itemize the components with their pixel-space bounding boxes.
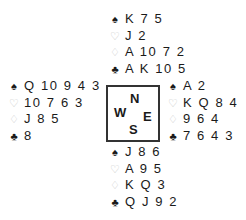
west-spades: ♠ Q 10 9 4 3 [8, 78, 101, 95]
spade-icon: ♠ [167, 78, 179, 95]
compass-box: N W E S [106, 85, 160, 142]
compass-east-label: E [143, 109, 152, 124]
east-hearts: ♡ K Q 8 4 [167, 95, 238, 112]
east-diamonds: ♢ 9 6 4 [167, 111, 238, 128]
south-spades-cards: J 8 6 [125, 144, 161, 161]
west-clubs-cards: 8 [24, 128, 33, 145]
north-diamonds: ♢ A 10 7 2 [109, 44, 187, 61]
compass-west-label: W [114, 105, 126, 120]
north-hearts-cards: J 2 [125, 28, 147, 45]
heart-icon: ♡ [8, 95, 20, 112]
club-icon: ♣ [8, 128, 20, 145]
south-spades: ♠ J 8 6 [109, 144, 178, 161]
club-icon: ♣ [109, 61, 121, 78]
diamond-icon: ♢ [109, 177, 121, 194]
diamond-icon: ♢ [167, 111, 179, 128]
south-hand: ♠ J 8 6 ♡ A 9 5 ♢ K Q 3 ♣ Q J 9 2 [109, 144, 178, 210]
east-diamonds-cards: 9 6 4 [183, 111, 220, 128]
east-clubs: ♣ 7 6 4 3 [167, 128, 238, 145]
south-hearts-cards: A 9 5 [125, 161, 163, 178]
west-hearts: ♡ 10 7 6 3 [8, 95, 101, 112]
east-hearts-cards: K Q 8 4 [183, 95, 238, 112]
north-hearts: ♡ J 2 [109, 28, 187, 45]
compass-north-label: N [130, 91, 139, 106]
spade-icon: ♠ [8, 78, 20, 95]
diamond-icon: ♢ [109, 44, 121, 61]
west-clubs: ♣ 8 [8, 128, 101, 145]
spade-icon: ♠ [109, 11, 121, 28]
north-clubs-cards: A K 10 5 [125, 61, 187, 78]
north-diamonds-cards: A 10 7 2 [125, 44, 186, 61]
west-hand: ♠ Q 10 9 4 3 ♡ 10 7 6 3 ♢ J 8 5 ♣ 8 [8, 78, 101, 144]
west-diamonds: ♢ J 8 5 [8, 111, 101, 128]
west-hearts-cards: 10 7 6 3 [24, 95, 84, 112]
heart-icon: ♡ [109, 161, 121, 178]
east-clubs-cards: 7 6 4 3 [183, 128, 234, 145]
diamond-icon: ♢ [8, 111, 20, 128]
east-spades: ♠ A 2 [167, 78, 238, 95]
club-icon: ♣ [109, 194, 121, 211]
south-diamonds-cards: K Q 3 [125, 177, 166, 194]
spade-icon: ♠ [109, 144, 121, 161]
east-hand: ♠ A 2 ♡ K Q 8 4 ♢ 9 6 4 ♣ 7 6 4 3 [167, 78, 238, 144]
east-spades-cards: A 2 [183, 78, 207, 95]
north-clubs: ♣ A K 10 5 [109, 61, 187, 78]
west-diamonds-cards: J 8 5 [24, 111, 60, 128]
south-clubs: ♣ Q J 9 2 [109, 194, 178, 211]
heart-icon: ♡ [109, 28, 121, 45]
north-hand: ♠ K 7 5 ♡ J 2 ♢ A 10 7 2 ♣ A K 10 5 [109, 11, 187, 77]
compass-south-label: S [129, 122, 138, 137]
north-spades: ♠ K 7 5 [109, 11, 187, 28]
south-hearts: ♡ A 9 5 [109, 161, 178, 178]
west-spades-cards: Q 10 9 4 3 [24, 78, 101, 95]
heart-icon: ♡ [167, 95, 179, 112]
south-clubs-cards: Q J 9 2 [125, 194, 178, 211]
south-diamonds: ♢ K Q 3 [109, 177, 178, 194]
north-spades-cards: K 7 5 [125, 11, 163, 28]
club-icon: ♣ [167, 128, 179, 145]
